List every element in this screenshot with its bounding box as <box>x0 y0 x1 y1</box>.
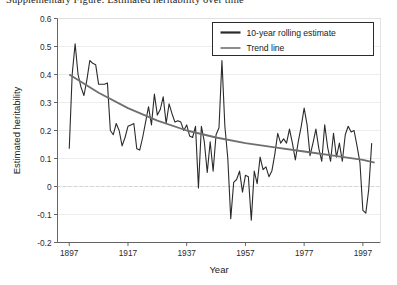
y-tick-label: 0.5 <box>40 42 52 52</box>
y-tick-label: -0.2 <box>37 238 52 248</box>
y-tick-label: 0.6 <box>40 14 52 24</box>
x-tick-label: 1957 <box>236 248 255 258</box>
y-tick-label: 0.4 <box>40 70 52 80</box>
legend-label: Trend line <box>247 43 285 53</box>
y-tick-label: 0.3 <box>40 98 52 108</box>
x-tick-label: 1897 <box>60 248 79 258</box>
x-tick-label: 1977 <box>295 248 314 258</box>
y-tick-label: 0.2 <box>40 126 52 136</box>
figure-container: Supplementary Figure: Estimated heritabi… <box>0 0 397 285</box>
chart-legend[interactable]: 10-year rolling estimateTrend line <box>213 23 374 56</box>
x-tick-label: 1937 <box>177 248 196 258</box>
x-tick-label: 1917 <box>119 248 138 258</box>
y-axis-label: Estimated heritability <box>11 86 22 174</box>
x-tick-label: 1997 <box>354 248 373 258</box>
legend-label: 10-year rolling estimate <box>247 28 337 38</box>
y-tick-label: 0 <box>47 182 52 192</box>
heritability-line-chart: -0.2-0.100.10.20.30.40.50.6 189719171937… <box>0 0 397 285</box>
x-axis-label: Year <box>209 264 228 275</box>
clipped-top-caption: Supplementary Figure: Estimated heritabi… <box>6 0 244 5</box>
y-tick-label: -0.1 <box>37 210 52 220</box>
y-tick-label: 0.1 <box>40 154 52 164</box>
